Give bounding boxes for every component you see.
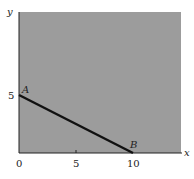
- x-tick-label-5: 5: [73, 158, 79, 169]
- plot-area: [19, 12, 181, 153]
- y-axis-label: y: [6, 6, 13, 17]
- chart: y x 5 0 5 10 A B: [0, 0, 194, 179]
- x-tick-label-10: 10: [127, 158, 140, 169]
- y-tick-label-5: 5: [8, 90, 14, 101]
- x-tick-label-0: 0: [16, 158, 22, 169]
- point-label-a: A: [21, 84, 29, 95]
- x-axis-label: x: [184, 147, 190, 158]
- point-label-b: B: [129, 139, 137, 150]
